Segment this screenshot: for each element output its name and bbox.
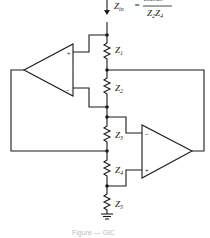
svg-text:Z2Z4: Z2Z4 <box>147 8 163 19</box>
left-opamp: + − <box>24 35 107 107</box>
z1-resistor <box>104 40 110 70</box>
gic-circuit-diagram: Zin = Z1Z3Z5 Z2Z4 Z1 Z2 Z3 Z4 Z5 <box>0 0 210 238</box>
z1-label: Z1 <box>115 45 123 56</box>
left-feedback-wire <box>11 70 107 151</box>
z2-resistor <box>104 70 110 107</box>
svg-text:Z1Z3Z5: Z1Z3Z5 <box>144 0 163 2</box>
input-impedance-formula: Zin = Z1Z3Z5 Z2Z4 <box>114 0 172 19</box>
z5-label: Z5 <box>115 199 123 210</box>
svg-text:=: = <box>134 0 140 10</box>
z4-resistor <box>104 151 110 186</box>
ground-icon <box>101 214 113 219</box>
svg-text:−: − <box>145 131 149 137</box>
z5-resistor <box>104 186 110 214</box>
z2-label: Z2 <box>115 83 123 94</box>
svg-text:+: + <box>67 50 71 56</box>
input-arrow <box>104 0 110 35</box>
svg-text:−: − <box>66 87 70 93</box>
z4-label: Z4 <box>115 165 123 176</box>
svg-text:Zin: Zin <box>114 1 124 12</box>
z3-label: Z3 <box>115 130 123 141</box>
svg-text:+: + <box>145 167 149 173</box>
figure-caption: Figure — GIC <box>72 229 115 237</box>
z3-resistor <box>104 117 110 151</box>
